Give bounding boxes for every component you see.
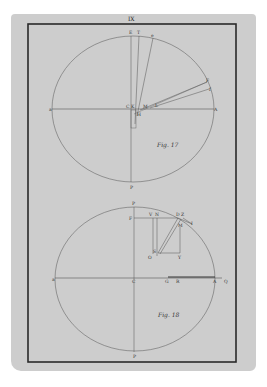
plate-number: IX — [128, 15, 135, 22]
label-a: a — [49, 107, 52, 112]
figure-17: E T e a A C K M L H F f P Fig. 17 — [49, 30, 218, 190]
fig18-diag-1 — [158, 218, 178, 253]
label-D: D — [176, 212, 180, 217]
label-O: O — [148, 255, 152, 260]
label-Z: Z — [181, 212, 184, 217]
label-M: M — [178, 223, 183, 228]
label-C: C — [132, 279, 136, 284]
label-H: H — [137, 112, 141, 117]
label-I: I — [191, 221, 193, 226]
label-F: F — [206, 78, 209, 83]
fig18-caption: Fig. 18 — [157, 311, 180, 319]
label-C: C — [126, 104, 130, 109]
figure-18: P F V N D Z I M O S Y a C G R A Q P Fig.… — [52, 201, 228, 359]
label-e: e — [151, 33, 154, 38]
label-A: A — [213, 107, 218, 112]
label-L: L — [155, 103, 158, 108]
label-Y: Y — [177, 255, 182, 260]
engraving-plate: IX E T e a A C K M L H F f P Fig. 17 — [0, 0, 267, 387]
label-M: M — [143, 104, 148, 109]
label-R: R — [176, 279, 180, 284]
label-S: S — [153, 249, 156, 254]
label-K: K — [131, 104, 135, 109]
label-P: P — [130, 185, 133, 190]
label-F: F — [129, 216, 132, 221]
label-Q: Q — [224, 279, 228, 284]
fig17-caption: Fig. 17 — [156, 141, 179, 149]
label-V: V — [148, 212, 153, 217]
label-N: N — [155, 212, 159, 217]
label-A: A — [212, 279, 217, 284]
label-P-top: P — [132, 201, 135, 206]
fig17-line-t — [135, 36, 139, 124]
label-T: T — [137, 30, 140, 35]
label-P-bottom: P — [133, 354, 136, 359]
label-G: G — [165, 279, 169, 284]
label-E: E — [129, 30, 132, 35]
label-a: a — [52, 277, 55, 282]
fig17-line-f2 — [150, 89, 209, 108]
